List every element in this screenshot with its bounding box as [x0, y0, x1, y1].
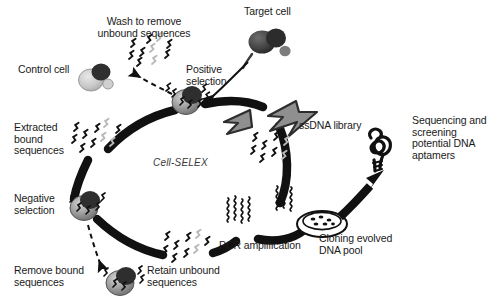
cloning-to-sequencing-arrow: [340, 170, 384, 217]
sequencing-label: Sequencing and screening potential DNA a…: [412, 115, 487, 161]
cell-selex-label: Cell-SELEX: [153, 157, 208, 169]
retain-unbound-label: Retain unbound sequences: [147, 265, 220, 288]
pcr-label: PCR amplification: [219, 240, 301, 252]
extracted-bound-label: Extracted bound sequences: [14, 122, 64, 157]
cloning-label: Cloning evolved DNA pool: [319, 233, 392, 256]
negative-selection-label: Negative selection: [14, 193, 55, 216]
retain-unbound-sequences-icon: [163, 230, 210, 262]
wash-label: Wash to remove unbound sequences: [88, 16, 200, 39]
target-cell-icon: [243, 29, 291, 69]
remove-bound-cell-icon: [104, 266, 144, 296]
cycle-arc-top-right: [205, 101, 263, 107]
remove-bound-dashed-arrow: [88, 225, 100, 263]
control-cell-label: Control cell: [18, 64, 69, 76]
remove-bound-label: Remove bound sequences: [14, 265, 84, 288]
control-cell-icon: [79, 63, 114, 91]
folded-dna-aptamer-icon: [370, 129, 391, 171]
ssdna-library-label: ssDNA library: [299, 120, 361, 132]
positive-selection-label: Positive selection: [186, 64, 227, 87]
target-cell-label: Target cell: [244, 6, 291, 18]
cell-selex-diagram: Wash to remove unbound sequences Target …: [0, 0, 502, 305]
cycle-arc-bottom-left: [97, 219, 163, 255]
